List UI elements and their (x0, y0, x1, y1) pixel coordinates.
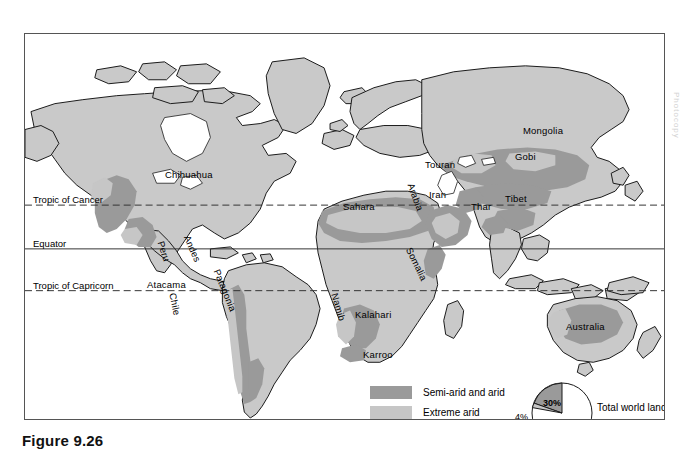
map-label-thar: Thar (471, 202, 491, 212)
lat-label-equator: Equator (33, 238, 66, 249)
figure-container: .land{fill:#c9c9c9;stroke:#1a1a1a;stroke… (0, 0, 693, 462)
world-map: .land{fill:#c9c9c9;stroke:#1a1a1a;stroke… (24, 33, 665, 420)
map-label-touran: Touran (425, 160, 455, 170)
lat-label-tropic-of-cancer: Tropic of Cancer (33, 194, 103, 205)
pie-caption: Total world land surface (597, 402, 665, 414)
map-label-karroo: Karroo (363, 350, 393, 360)
map-label-kalahari: Kalahari (355, 310, 391, 320)
map-legend: Semi-arid and arid Extreme arid (370, 386, 505, 420)
legend-label-extreme-arid: Extreme arid (423, 407, 480, 418)
legend-item-extreme-arid: Extreme arid (370, 406, 505, 419)
pie-svg (531, 382, 593, 420)
map-label-atacama: Atacama (147, 280, 186, 290)
map-label-gobi: Gobi (515, 152, 536, 162)
figure-caption: Figure 9.26 (22, 432, 103, 449)
map-label-tibet: Tibet (505, 194, 527, 204)
legend-swatch-extreme-arid (370, 406, 412, 419)
map-label-australia: Australia (566, 322, 605, 332)
map-label-mongolia: Mongolia (523, 126, 563, 136)
pie-value-semi-arid: 30% (543, 398, 561, 408)
map-label-sahara: Sahara (343, 202, 375, 212)
land-surface-pie-chart: 30% 4% (531, 382, 593, 420)
map-label-iran: Iran (429, 190, 446, 200)
pie-value-extreme-arid: 4% (515, 412, 528, 420)
map-label-chihuahua: Chihuahua (165, 170, 213, 180)
lat-label-tropic-of-capricorn: Tropic of Capricorn (33, 280, 113, 291)
map-geometry: .land{fill:#c9c9c9;stroke:#1a1a1a;stroke… (25, 34, 664, 419)
legend-label-semi-arid: Semi-arid and arid (423, 387, 505, 398)
legend-item-semi-arid: Semi-arid and arid (370, 386, 505, 399)
legend-swatch-semi-arid (370, 386, 412, 399)
scan-edge-artifact: Photocopy (672, 92, 681, 139)
